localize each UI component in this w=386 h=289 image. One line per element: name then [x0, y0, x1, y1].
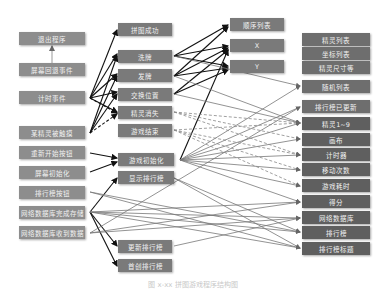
node-sprite-size: 精灵尺寸等: [302, 61, 370, 74]
node-exit-program: 退出程序: [19, 32, 85, 45]
node-game-init: 游戏初始化: [118, 153, 174, 166]
node-screen-back-event: 屏幕回退事件: [19, 63, 85, 76]
node-screen-init: 屏幕初始化: [19, 166, 85, 179]
node-order-list: 顺序列表: [230, 18, 284, 31]
node-show-leaderboard: 显示排行榜: [118, 171, 174, 184]
node-sprite-touched: 某精灵被触摸: [19, 126, 85, 139]
node-sprite-1-9: 精灵1~9: [302, 117, 370, 130]
node-leaderboard: 排行榜: [302, 226, 370, 239]
node-x: X: [230, 39, 284, 52]
node-leaderboard-button: 排行榜按钮: [19, 186, 85, 199]
node-network-db: 网络数据库: [302, 211, 370, 224]
node-timer: 计时器: [302, 148, 370, 161]
node-restart-button: 重新开始按钮: [19, 146, 85, 159]
node-update-leaderboard: 更新排行榜: [118, 240, 172, 253]
node-puzzle-success: 拼图成功: [118, 23, 172, 36]
node-sprite-vanish: 精灵消失: [118, 106, 172, 119]
node-random-list: 随机列表: [302, 80, 370, 93]
node-game-time: 游戏耗时: [302, 179, 370, 192]
node-y: Y: [230, 60, 284, 73]
node-score: 得分: [302, 195, 370, 208]
node-sprite-list: 精灵列表: [302, 33, 370, 46]
node-create-leaderboard: 首创排行榜: [118, 259, 172, 272]
node-timer-event: 计时事件: [19, 91, 85, 104]
node-game-over: 游戏结束: [118, 124, 172, 137]
node-leaderboard-title: 排行榜标题: [302, 242, 370, 255]
node-swap-position: 交换位置: [118, 88, 172, 101]
node-shuffle: 洗牌: [118, 50, 172, 63]
node-leaderboard-updated: 排行榜已更新: [302, 100, 370, 113]
node-db-stored: 网络数据库完成存储: [19, 206, 85, 219]
node-deal: 发牌: [118, 69, 172, 82]
node-canvas: 画布: [302, 133, 370, 146]
node-move-count: 移动次数: [302, 163, 370, 176]
node-coord-list: 坐标列表: [302, 47, 370, 60]
node-db-received: 网络数据库收到数据: [19, 226, 85, 239]
figure-caption: 图 x-xx 拼图游戏程序结构图: [0, 279, 386, 289]
